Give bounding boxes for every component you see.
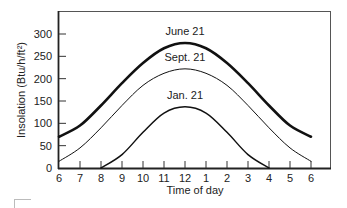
x-tick-label: 11 xyxy=(158,172,169,184)
y-tick-label: 50 xyxy=(40,140,52,152)
y-tick-label: 250 xyxy=(34,50,52,62)
x-tick-label: 6 xyxy=(308,172,314,184)
series-labels: June 21Sept. 21Jan. 21 xyxy=(165,25,206,101)
x-tick-label: 6 xyxy=(56,172,62,184)
x-tick-label: 3 xyxy=(245,172,251,184)
x-tick-label: 8 xyxy=(98,172,104,184)
y-tick-label: 0 xyxy=(46,162,52,174)
x-axis-title: Time of day xyxy=(166,184,224,196)
x-tick-label: 9 xyxy=(119,172,125,184)
y-tick-label: 300 xyxy=(34,28,52,40)
series-line-jan-21 xyxy=(101,107,269,168)
series-label-june-21: June 21 xyxy=(165,25,204,37)
series-label-sept-21: Sept. 21 xyxy=(165,51,206,63)
y-axis-title: Insolation (Btu/h/ft²) xyxy=(15,42,27,138)
y-axis-ticks: 050100150200250300 xyxy=(34,28,66,174)
x-tick-label: 10 xyxy=(137,172,149,184)
y-tick-label: 100 xyxy=(34,117,52,129)
x-tick-label: 1 xyxy=(203,172,209,184)
series-label-jan-21: Jan. 21 xyxy=(167,89,203,101)
x-axis-ticks: 6789101112123456 xyxy=(56,161,314,184)
x-tick-label: 7 xyxy=(77,172,83,184)
y-tick-label: 150 xyxy=(34,95,52,107)
x-tick-label: 5 xyxy=(287,172,293,184)
x-tick-label: 4 xyxy=(266,172,272,184)
series-line-sept-21 xyxy=(59,69,311,161)
x-tick-label: 12 xyxy=(179,172,191,184)
corner-crop-mark xyxy=(14,199,31,208)
insolation-chart: 050100150200250300 6789101112123456 June… xyxy=(0,0,347,208)
x-tick-label: 2 xyxy=(224,172,230,184)
y-tick-label: 200 xyxy=(34,73,52,85)
